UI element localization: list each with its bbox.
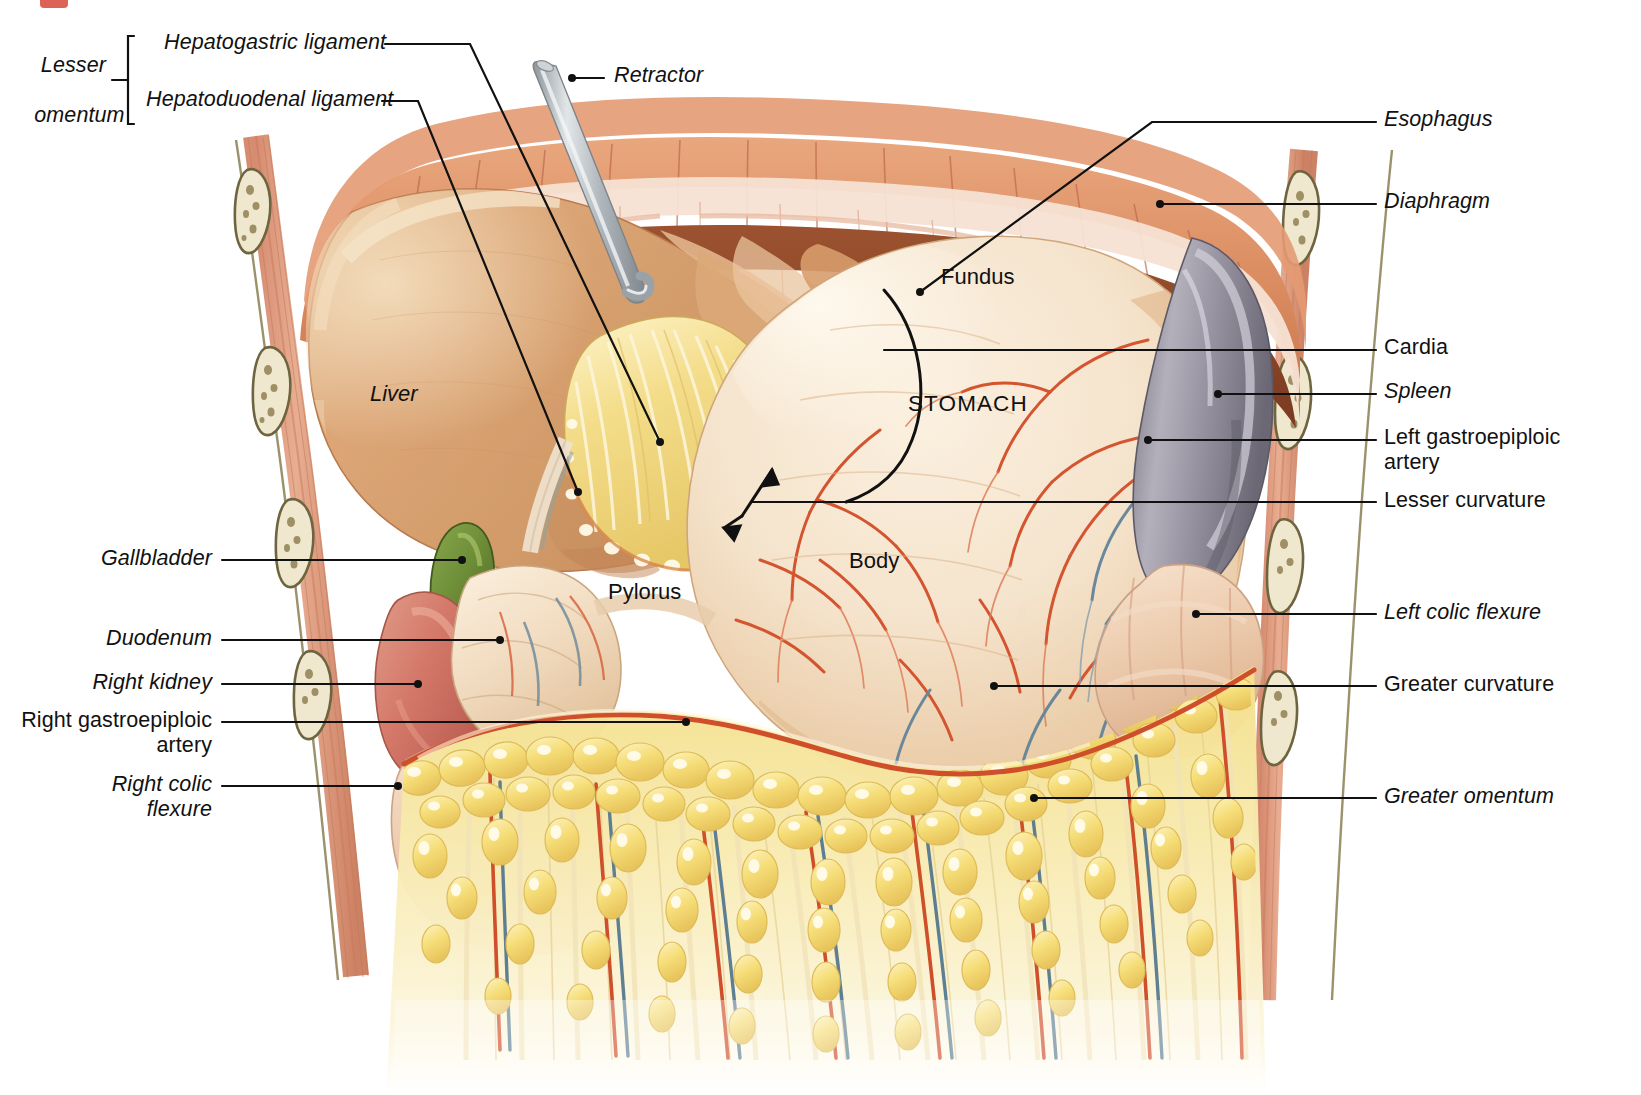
label-greater-curvature: Greater curvature [1384, 672, 1554, 697]
label-greater-omentum: Greater omentum [1384, 784, 1554, 809]
label-hepatoduodenal-ligament: Hepatoduodenal ligament [146, 87, 393, 112]
label-cardia: Cardia [1384, 335, 1448, 360]
label-right-kidney: Right kidney [0, 670, 212, 695]
label-stomach: STOMACH [908, 391, 1028, 417]
anatomy-illustration [0, 0, 1641, 1095]
label-retractor: Retractor [614, 63, 703, 88]
label-duodenum: Duodenum [0, 626, 212, 651]
label-right-colic-flexure: Right colic flexure [0, 772, 212, 822]
label-gallbladder: Gallbladder [0, 546, 212, 571]
label-liver: Liver [370, 381, 418, 407]
label-pylorus: Pylorus [608, 579, 681, 605]
label-left-gastroepiploic-artery: Left gastroepiploic artery [1384, 425, 1634, 475]
label-fundus: Fundus [941, 264, 1014, 290]
lesser-omentum-group-label: Lesser omentum [10, 28, 106, 153]
label-left-colic-flexure: Left colic flexure [1384, 600, 1541, 625]
label-spleen: Spleen [1384, 379, 1452, 404]
label-lesser-curvature: Lesser curvature [1384, 488, 1546, 513]
anatomy-figure: Lesser omentum Hepatogastric ligament He… [0, 0, 1641, 1095]
lesser-omentum-line2: omentum [34, 103, 124, 127]
label-esophagus: Esophagus [1384, 107, 1492, 132]
label-body: Body [849, 548, 899, 574]
label-right-gastroepiploic-artery: Right gastroepiploic artery [0, 708, 212, 758]
lesser-omentum-line1: Lesser [41, 53, 106, 77]
label-hepatogastric-ligament: Hepatogastric ligament [164, 30, 386, 55]
corner-mark [40, 0, 68, 8]
label-diaphragm: Diaphragm [1384, 189, 1490, 214]
